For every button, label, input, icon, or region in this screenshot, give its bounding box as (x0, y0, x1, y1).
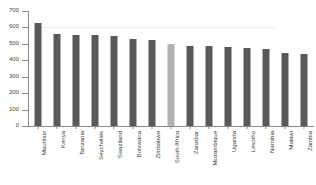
x-axis-label: Zimbabwe (155, 131, 162, 159)
x-axis-label: Zanzibar (193, 131, 200, 154)
x-tick-mark (132, 126, 133, 129)
y-tick-label: 100 (0, 105, 19, 112)
x-axis-label: Kenya (60, 131, 67, 148)
x-axis-label-slot: Namibia (257, 131, 276, 185)
bar-slot (123, 11, 142, 126)
bar-chart: 7006005004003002001000 MauritiusKenyaTan… (0, 0, 316, 185)
bar[interactable] (187, 46, 194, 127)
x-tick-mark (37, 126, 38, 129)
x-axis-label-slot: Uganda (219, 131, 238, 185)
bar-slot (276, 11, 295, 126)
bar[interactable] (225, 47, 232, 126)
x-tick-mark (94, 126, 95, 129)
x-axis-label: Swaziland (117, 131, 124, 158)
bar-slot (200, 11, 219, 126)
bar[interactable] (53, 34, 60, 126)
x-tick-mark (75, 126, 76, 129)
x-tick-mark (151, 126, 152, 129)
x-tick-mark (170, 126, 171, 129)
bar-slot (219, 11, 238, 126)
bar-slot (85, 11, 104, 126)
x-axis-label: Namibia (269, 131, 276, 153)
y-tick-label: 500 (0, 39, 19, 46)
y-tick-label: 600 (0, 22, 19, 29)
y-tick-label: 400 (0, 55, 19, 62)
bar-slot (47, 11, 66, 126)
x-tick-mark (266, 126, 267, 129)
bar-slot (295, 11, 314, 126)
bar-slot (161, 11, 180, 126)
bar-slot (257, 11, 276, 126)
x-axis-label: Lesotho (250, 131, 257, 152)
x-tick-mark (209, 126, 210, 129)
x-axis-label-slot: Lesotho (238, 131, 257, 185)
x-axis-label-slot: Zimbabwe (142, 131, 161, 185)
x-axis-label: Zambia (307, 131, 314, 151)
bar[interactable] (282, 53, 289, 126)
bar[interactable] (206, 46, 213, 126)
bar[interactable] (263, 49, 270, 126)
bar[interactable] (167, 44, 174, 126)
x-tick-mark (247, 126, 248, 129)
x-axis-label: Mauritius (41, 131, 48, 155)
bar[interactable] (72, 35, 79, 126)
x-axis-label-slot: Botswana (123, 131, 142, 185)
x-tick-mark (113, 126, 114, 129)
x-axis-label-slot: Seychelles (85, 131, 104, 185)
y-tick-label: 0 (0, 121, 19, 128)
bar[interactable] (244, 48, 251, 126)
x-axis-label: Botswana (136, 131, 143, 157)
bar[interactable] (148, 40, 155, 126)
bars-container (28, 11, 314, 126)
bar-slot (181, 11, 200, 126)
y-tick-label: 200 (0, 88, 19, 95)
x-axis-label: Uganda (231, 131, 238, 152)
x-axis-label-slot: Mozambique (200, 131, 219, 185)
bar[interactable] (301, 54, 308, 126)
x-axis-label-slot: Tanzania (66, 131, 85, 185)
x-axis-label-slot: Zanzibar (181, 131, 200, 185)
x-axis-label-slot: Zambia (295, 131, 314, 185)
bar[interactable] (110, 36, 117, 126)
x-axis-label: Tanzania (79, 131, 86, 155)
x-axis-label: Seychelles (98, 131, 105, 160)
x-axis-label: Malawi (288, 131, 295, 150)
x-tick-mark (190, 126, 191, 129)
bar[interactable] (129, 39, 136, 126)
bar-slot (238, 11, 257, 126)
y-tick-mark (22, 126, 28, 127)
bar[interactable] (91, 35, 98, 126)
x-axis-label-slot: Malawi (276, 131, 295, 185)
x-tick-mark (228, 126, 229, 129)
x-axis-label-slot: Kenya (47, 131, 66, 185)
x-axis-label: Mozambique (212, 131, 219, 165)
bar-slot (28, 11, 47, 126)
y-tick-label: 700 (0, 6, 19, 13)
x-tick-mark (285, 126, 286, 129)
y-tick-label: 300 (0, 72, 19, 79)
x-axis-label: South Africa (174, 131, 181, 163)
x-axis-category-labels: MauritiusKenyaTanzaniaSeychellesSwazilan… (28, 131, 314, 185)
x-tick-mark (56, 126, 57, 129)
bar-slot (142, 11, 161, 126)
x-axis-label-slot: Swaziland (104, 131, 123, 185)
bar-slot (66, 11, 85, 126)
x-axis-label-slot: South Africa (161, 131, 180, 185)
x-axis-label-slot: Mauritius (28, 131, 47, 185)
x-tick-mark (304, 126, 305, 129)
bar[interactable] (34, 23, 41, 126)
bar-slot (104, 11, 123, 126)
